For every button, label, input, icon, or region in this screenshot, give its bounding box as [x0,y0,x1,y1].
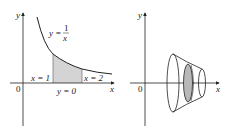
curve-label-denominator: x [62,33,67,43]
shaded-disk [184,64,193,102]
y-axis-label: y [15,10,20,20]
x-axis-label: x [109,84,114,94]
curve-label-lhs: y = [48,28,61,38]
curve-reciprocal [37,17,112,74]
x-axis-label: x [215,84,220,94]
bound-label-x2: x = 2 [83,73,104,83]
origin-label: 0 [138,84,143,94]
origin-label: 0 [16,84,21,94]
right-graph: y x 0 [130,10,220,126]
figure-canvas: y x 0 y = 1 x x = 1 x = 2 y = 0 y x 0 [0,0,230,131]
bound-label-y0: y = 0 [56,86,77,96]
left-graph: y x 0 y = 1 x x = 1 x = 2 y = 0 [10,10,114,126]
curve-label-numerator: 1 [64,23,69,33]
bound-label-x1: x = 1 [30,73,50,83]
y-axis-label: y [137,10,142,20]
shaded-region [53,54,82,83]
